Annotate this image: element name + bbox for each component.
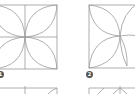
step-2-petal-small [120,36,127,66]
step-1-petal-bottom-left [0,37,25,69]
diagram-canvas [0,0,135,94]
step-4-stroke-b [113,88,120,94]
step-1-petal-top-left [0,5,25,37]
step-4-stroke-a [98,88,104,94]
step-2-petal-top-right [120,2,135,36]
step-3-diagram-partial [0,86,57,94]
step-1-diagram [0,5,57,69]
step-2-diagram [89,2,135,68]
step-4-diagram-partial [89,86,135,94]
step-3-petal [48,88,57,94]
step-4-stroke-c [120,88,127,94]
step-1-petal-top-right [25,5,57,37]
step-2-number-badge: 2 [86,71,93,78]
step-2-petal-right [120,35,135,36]
step-1-petal-bottom-right [25,37,57,69]
